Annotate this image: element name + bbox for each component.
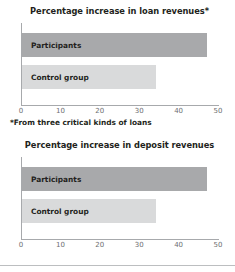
bar-label-control-group: Control group	[22, 207, 89, 216]
bottom-divider	[0, 265, 235, 266]
bar-participants: Participants	[22, 167, 207, 191]
x-tick-label: 0	[19, 241, 23, 249]
x-tick-label: 10	[56, 107, 65, 115]
bar-control-group: Control group	[22, 65, 156, 89]
x-tick-label: 40	[174, 107, 183, 115]
x-tick-label: 0	[19, 107, 23, 115]
x-tick-label: 40	[174, 241, 183, 249]
bar-label-participants: Participants	[22, 175, 81, 184]
bar-label-participants: Participants	[22, 41, 81, 50]
bar-label-control-group: Control group	[22, 73, 89, 82]
chart-title-deposit-revenues: Percentage increase in deposit revenues	[0, 136, 235, 150]
x-tick-label: 10	[56, 241, 65, 249]
plot-area-deposit-revenues: Participants Control group 01020304050	[0, 157, 235, 257]
x-tick-label: 50	[214, 107, 223, 115]
chart-title-loan-revenues: Percentage increase in loan revenues*	[0, 0, 235, 16]
plot-area-loan-revenues: Participants Control group 01020304050	[0, 23, 235, 123]
plot-frame: Participants Control group	[21, 23, 219, 106]
x-tick-label: 50	[214, 241, 223, 249]
x-tick-label: 20	[95, 107, 104, 115]
plot-frame: Participants Control group	[21, 157, 219, 240]
chart-loan-revenues: Percentage increase in loan revenues* Pa…	[0, 0, 235, 132]
bar-control-group: Control group	[22, 199, 156, 223]
x-tick-label: 20	[95, 241, 104, 249]
chart-deposit-revenues: Percentage increase in deposit revenues …	[0, 136, 235, 256]
x-tick-label: 30	[135, 241, 144, 249]
footnote-loan-revenues: *From three critical kinds of loans	[10, 118, 152, 127]
x-tick-label: 30	[135, 107, 144, 115]
bar-participants: Participants	[22, 33, 207, 57]
x-axis-ticks: 01020304050	[21, 241, 218, 255]
